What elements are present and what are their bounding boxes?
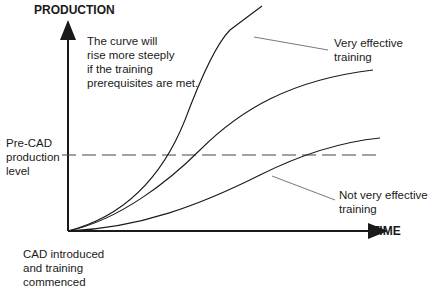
leader-not-effective bbox=[272, 176, 335, 200]
curve-not-effective bbox=[68, 138, 380, 231]
curve-label-not-effective: Not very effective training bbox=[339, 188, 428, 216]
curve-label-very-effective: Very effective training bbox=[334, 36, 403, 64]
curve-very-effective bbox=[68, 70, 373, 231]
baseline-label: Pre-CAD production level bbox=[6, 136, 60, 178]
x-axis-label: TIME bbox=[372, 224, 401, 238]
y-axis-label: PRODUCTION bbox=[34, 3, 115, 17]
steepness-note: The curve will rise more steeply if the … bbox=[87, 34, 198, 90]
origin-label: CAD introduced and training commenced bbox=[23, 247, 104, 289]
leader-very-effective bbox=[254, 37, 328, 50]
